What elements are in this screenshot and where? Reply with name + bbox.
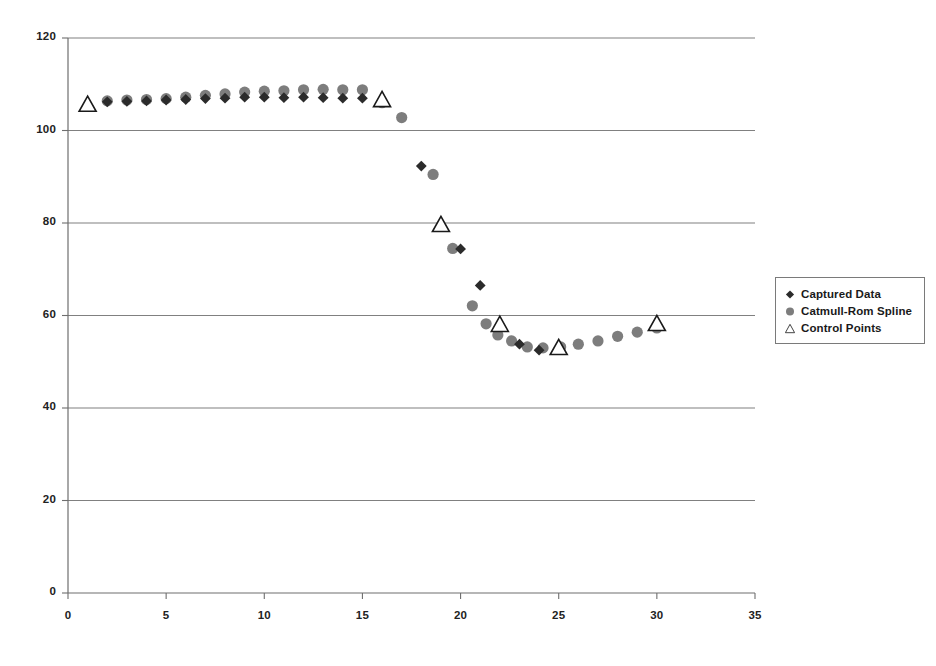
x-axis-tick-label: 0 <box>48 609 88 621</box>
legend-label: Captured Data <box>801 288 881 300</box>
y-axis-tick-label: 120 <box>12 30 56 42</box>
legend-marker-diamond-icon <box>783 287 797 301</box>
legend-label: Control Points <box>801 322 882 334</box>
y-axis-tick-label: 80 <box>12 215 56 227</box>
y-axis-tick-label: 20 <box>12 493 56 505</box>
x-axis-tick-label: 35 <box>735 609 775 621</box>
x-axis-tick-label: 10 <box>244 609 284 621</box>
gridlines <box>68 38 755 501</box>
x-axis-tick-label: 5 <box>146 609 186 621</box>
x-axis-tick-label: 30 <box>637 609 677 621</box>
legend-item-triangle[interactable]: Control Points <box>783 319 915 336</box>
legend-item-circle[interactable]: Catmull-Rom Spline <box>783 302 915 319</box>
y-axis-tick-label: 60 <box>12 308 56 320</box>
legend-marker-triangle-icon <box>783 321 797 335</box>
legend-label: Catmull-Rom Spline <box>801 305 912 317</box>
series-catmull-rom-spline-markers <box>102 84 663 354</box>
legend-item-diamond[interactable]: Captured Data <box>783 285 915 302</box>
y-axis-tick-label: 40 <box>12 400 56 412</box>
x-axis-tick-label: 20 <box>441 609 481 621</box>
y-axis-tick-label: 100 <box>12 123 56 135</box>
chart-canvas: 02040608010012005101520253035 Captured D… <box>0 0 936 666</box>
x-axis-tick-label: 15 <box>342 609 382 621</box>
chart-legend: Captured DataCatmull-Rom SplineControl P… <box>775 277 925 344</box>
y-axis-tick-label: 0 <box>12 585 56 597</box>
legend-marker-circle-icon <box>783 304 797 318</box>
x-axis-tick-label: 25 <box>539 609 579 621</box>
x-tick-marks <box>68 593 755 599</box>
y-tick-marks <box>62 38 68 593</box>
